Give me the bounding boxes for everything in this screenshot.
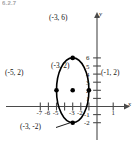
y-axis-label: y bbox=[99, 11, 102, 18]
xtick-label--6: -6 bbox=[45, 109, 51, 116]
figure-container: 6.2.7 bbox=[0, 0, 136, 144]
x-axis-label: x bbox=[128, 101, 131, 108]
label-point-bottom-vertex: (-3, -2) bbox=[20, 123, 41, 131]
point-bottom-vertex bbox=[70, 120, 75, 125]
label-point-right-vertex: (-1, 2) bbox=[101, 69, 119, 77]
point-top-vertex bbox=[70, 56, 75, 61]
label-point-left-vertex: (-5, 2) bbox=[5, 69, 23, 77]
label-point-top-vertex: (-3, 6) bbox=[49, 14, 67, 22]
point-center bbox=[70, 88, 75, 93]
label-point-center: (-3, 2) bbox=[51, 62, 69, 70]
xtick-label-1: 1 bbox=[112, 109, 115, 116]
xtick-label--3: -3 bbox=[69, 109, 75, 116]
ytick-label--1: -1 bbox=[84, 111, 90, 118]
ytick-label-1: 1 bbox=[86, 95, 89, 102]
point-left-vertex bbox=[54, 88, 59, 93]
bottom-vertex-leader-line bbox=[56, 123, 70, 128]
xtick-label--2: -2 bbox=[77, 109, 83, 116]
ytick-label--2: -2 bbox=[84, 119, 90, 126]
ytick-label-6: 6 bbox=[86, 54, 89, 61]
xtick-label--5: -5 bbox=[53, 109, 59, 116]
ytick-label-2: 2 bbox=[86, 87, 89, 94]
ytick-label-3: 3 bbox=[86, 79, 89, 86]
y-axis bbox=[93, 12, 101, 140]
xtick-label--7: -7 bbox=[37, 109, 43, 116]
ytick-label-4: 4 bbox=[86, 71, 89, 78]
ytick-label-5: 5 bbox=[86, 63, 89, 70]
